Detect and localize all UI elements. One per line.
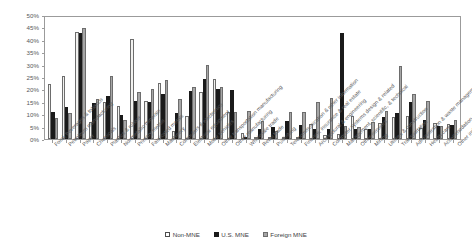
x-axis-label: Finance, insurance & real estate — [303, 143, 307, 147]
chart-legend: Non-MNEU.S. MNEForeign MNE — [0, 231, 472, 238]
x-axis-label: Fabricated metals — [150, 143, 154, 147]
x-axis-label: Administration & waste management — [414, 143, 418, 147]
y-axis-tick-label: 50% — [1, 13, 39, 19]
x-axis-label: Mining — [373, 143, 377, 147]
bar-group — [390, 17, 404, 139]
legend-item: U.S. MNE — [214, 231, 249, 238]
y-axis: 50%45%40%35%30%25%20%15%10%5%0% — [0, 10, 42, 146]
x-axis-label: Motor vehicles — [206, 143, 210, 147]
bar-group — [60, 17, 74, 139]
x-axis-label: Computer systems design & related — [331, 143, 335, 147]
legend-swatch — [165, 232, 170, 237]
y-axis-tick-label: 20% — [1, 87, 39, 93]
bar-group — [115, 17, 129, 139]
y-axis-tick-label: 15% — [1, 100, 39, 106]
y-axis-tick-label: 5% — [1, 125, 39, 131]
x-axis-labels: Food, beverages & tobaccoPetroleum manuf… — [44, 143, 461, 229]
bar-group — [445, 17, 459, 139]
legend-label: Non-MNE — [173, 231, 200, 238]
x-axis-label: Food, beverages & tobacco — [53, 143, 57, 147]
bar-group — [101, 17, 115, 139]
bar-groups-container — [45, 17, 460, 139]
legend-label: U.S. MNE — [221, 231, 249, 238]
grouped-bar-chart: 50%45%40%35%30%25%20%15%10%5%0% Food, be… — [0, 0, 472, 250]
x-axis-label: Management, scientific, & technical — [345, 143, 349, 147]
bar-group — [184, 17, 198, 139]
x-axis-label: Chemicals — [95, 143, 99, 147]
bar-group — [280, 17, 294, 139]
bar-group — [294, 17, 308, 139]
legend-label: Foreign MNE — [270, 231, 306, 238]
y-axis-tick-label: 40% — [1, 38, 39, 44]
x-axis-label: Health care — [428, 143, 432, 147]
x-axis-label: Transportation — [400, 143, 404, 147]
y-axis-tick-label: 0% — [1, 137, 39, 143]
x-axis-label: Plastics & rubber — [109, 143, 113, 147]
y-axis-tick-label: 35% — [1, 50, 39, 56]
x-axis-label: Computers & electronics — [178, 143, 182, 147]
x-axis-label: Primary metals — [136, 143, 140, 147]
x-axis-label: Paper — [81, 143, 85, 147]
x-axis-label: Nonmetallic minerals — [122, 143, 126, 147]
legend-item: Foreign MNE — [263, 231, 307, 238]
x-axis-label: Machinery — [164, 143, 168, 147]
x-axis-label: Architectural & engineering — [317, 143, 321, 147]
plot-area — [44, 16, 461, 140]
x-axis-label: Other manufacturing — [234, 143, 238, 147]
x-axis-label: Utilities & construction — [387, 143, 391, 147]
x-axis-label: Retail trade — [261, 143, 265, 147]
x-axis-label: Other services — [359, 143, 363, 147]
x-axis-label: Petroleum manufacturing — [67, 143, 71, 147]
bar-group — [46, 17, 60, 139]
legend-swatch — [263, 232, 268, 237]
y-axis-tick-label: 25% — [1, 75, 39, 81]
legend-swatch — [214, 232, 219, 237]
x-axis-label: Telecommunication & other information — [289, 143, 293, 147]
y-axis-tick-label: 45% — [1, 25, 39, 31]
x-axis-label: Other industries — [456, 143, 460, 147]
bar — [82, 28, 85, 139]
x-axis-label: Publishing — [275, 143, 279, 147]
x-axis-label: Wholesale trade — [248, 143, 252, 147]
y-axis-tick-label: 30% — [1, 63, 39, 69]
bar — [55, 118, 58, 139]
x-axis-label: Electrical equipment — [192, 143, 196, 147]
legend-item: Non-MNE — [165, 231, 200, 238]
x-axis-label: Other transportation manufacturing — [220, 143, 224, 147]
x-axis-label: Accommodation & food — [442, 143, 446, 147]
y-axis-tick-label: 10% — [1, 112, 39, 118]
